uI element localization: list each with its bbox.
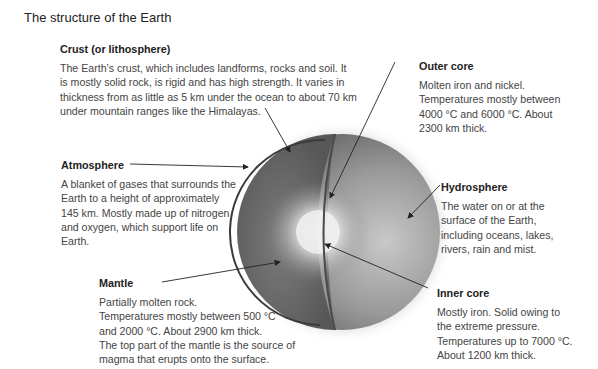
atmosphere-line-5: Earth.	[61, 234, 261, 248]
crust-line-3: thickness from as little as 5 km under t…	[60, 90, 370, 104]
crust-annotation: Crust (or lithosphere) The Earth’s crust…	[60, 42, 370, 118]
outer-core-heading: Outer core	[419, 59, 589, 73]
atmosphere-line-3: 145 km. Mostly made up of nitrogen	[61, 206, 261, 220]
hydrosphere-annotation: Hydrosphere The water on or at the surfa…	[441, 180, 591, 256]
atmosphere-line-2: Earth to a height of approximately	[61, 191, 261, 205]
mantle-line-3: and 2000 °C. About 2900 km thick.	[99, 324, 339, 338]
outer-core-annotation: Outer core Molten iron and nickel. Tempe…	[419, 59, 589, 135]
inner-core-annotation: Inner core Mostly iron. Solid owing to t…	[437, 286, 597, 362]
atmosphere-line-1: A blanket of gases that surrounds the	[61, 177, 261, 191]
inner-core-line-4: About 1200 km thick.	[437, 348, 597, 362]
inner-core-line-3: Temperatures up to 7000 °C.	[437, 334, 597, 348]
hydrosphere-line-4: rivers, rain and mist.	[441, 242, 591, 256]
outer-core-line-1: Molten iron and nickel.	[419, 78, 589, 92]
crust-line-1: The Earth’s crust, which includes landfo…	[60, 61, 370, 75]
mantle-line-1: Partially molten rock.	[99, 295, 339, 309]
crust-heading: Crust (or lithosphere)	[60, 42, 370, 56]
mantle-heading: Mantle	[99, 276, 339, 290]
inner-core-line-2: the extreme pressure.	[437, 319, 597, 333]
hydrosphere-line-2: surface of the Earth,	[441, 213, 591, 227]
mantle-annotation: Mantle Partially molten rock. Temperatur…	[99, 276, 339, 366]
inner-core-line-1: Mostly iron. Solid owing to	[437, 305, 597, 319]
hydrosphere-line-3: including oceans, lakes,	[441, 228, 591, 242]
crust-line-4: under mountain ranges like the Himalayas…	[60, 104, 370, 118]
atmosphere-annotation: Atmosphere A blanket of gases that surro…	[61, 158, 261, 248]
outer-core-line-4: 2300 km thick.	[419, 121, 589, 135]
mantle-line-5: magma that erupts onto the surface.	[99, 352, 339, 366]
hydrosphere-line-1: The water on or at the	[441, 199, 591, 213]
mantle-line-4: The top part of the mantle is the source…	[99, 338, 339, 352]
outer-core-line-3: 4000 °C and 6000 °C. About	[419, 107, 589, 121]
outer-core-line-2: Temperatures mostly between	[419, 92, 589, 106]
atmosphere-line-4: and oxygen, which support life on	[61, 220, 261, 234]
atmosphere-heading: Atmosphere	[61, 158, 261, 172]
mantle-line-2: Temperatures mostly between 500 °C	[99, 309, 339, 323]
crust-line-2: is mostly solid rock, is rigid and has h…	[60, 75, 370, 89]
hydrosphere-heading: Hydrosphere	[441, 180, 591, 194]
inner-core-heading: Inner core	[437, 286, 597, 300]
